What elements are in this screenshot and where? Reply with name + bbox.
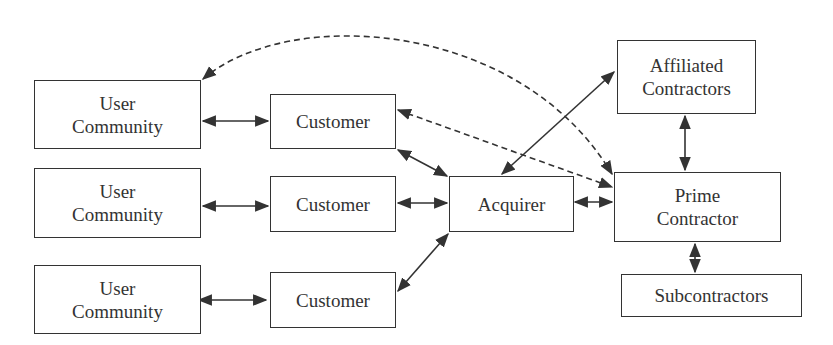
node-prime-contractor: Prime Contractor — [614, 172, 781, 242]
node-customer-2: Customer — [270, 176, 396, 232]
node-affiliated-contractors: Affiliated Contractors — [617, 40, 756, 114]
node-acquirer: Acquirer — [449, 176, 574, 232]
edge-acq-aff — [502, 72, 614, 174]
edge-cu3-acq — [398, 234, 448, 291]
edge-cu1-acq — [398, 150, 447, 176]
node-user-community-2: User Community — [34, 168, 201, 238]
edge-uc1-prime-curved-dashed — [203, 36, 612, 174]
node-subcontractors: Subcontractors — [621, 274, 802, 317]
node-user-community-1: User Community — [34, 80, 201, 149]
node-customer-3: Customer — [270, 272, 396, 328]
node-user-community-3: User Community — [34, 265, 201, 334]
node-customer-1: Customer — [270, 94, 396, 149]
